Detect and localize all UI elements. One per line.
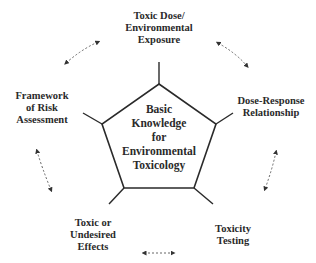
node-top-line-2: Environmental xyxy=(109,22,209,34)
node-bottomleft-line-1: Toxic or xyxy=(58,217,128,229)
node-right-line-1: Dose-Response xyxy=(228,95,314,107)
node-toxicity-testing: Toxicity Testing xyxy=(198,223,268,247)
connector-right-bottomright-arrow xyxy=(265,152,276,189)
node-toxic-effects: Toxic or Undesired Effects xyxy=(58,217,128,253)
spoke-bottom-right xyxy=(194,188,213,204)
node-top-line-3: Exposure xyxy=(109,34,209,46)
node-left-line-3: Assessment xyxy=(6,114,78,126)
node-bottomright-line-2: Testing xyxy=(198,235,268,247)
node-top-line-1: Toxic Dose/ xyxy=(109,10,209,22)
node-dose-response: Dose-Response Relationship xyxy=(228,95,314,119)
center-label: Basic Knowledge for Environmental Toxico… xyxy=(109,102,209,172)
node-bottomleft-line-3: Effects xyxy=(58,241,128,253)
node-bottomright-line-1: Toxicity xyxy=(198,223,268,235)
center-line-5: Toxicology xyxy=(109,158,209,172)
node-left-line-2: of Risk xyxy=(6,102,78,114)
connector-left-top-arrow xyxy=(66,42,98,63)
center-line-3: for xyxy=(109,130,209,144)
node-bottomleft-line-2: Undesired xyxy=(58,229,128,241)
node-right-line-2: Relationship xyxy=(228,107,314,119)
spoke-bottom-left xyxy=(109,188,124,204)
connector-top-right-arrow xyxy=(218,43,247,66)
center-line-1: Basic xyxy=(109,102,209,116)
node-toxic-dose: Toxic Dose/ Environmental Exposure xyxy=(109,10,209,46)
spoke-left xyxy=(83,113,102,124)
node-left-line-1: Framework xyxy=(6,90,78,102)
center-line-4: Environmental xyxy=(109,144,209,158)
connector-bottomleft-left-arrow xyxy=(37,151,51,190)
center-line-2: Knowledge xyxy=(109,116,209,130)
node-risk-assessment: Framework of Risk Assessment xyxy=(6,90,78,126)
